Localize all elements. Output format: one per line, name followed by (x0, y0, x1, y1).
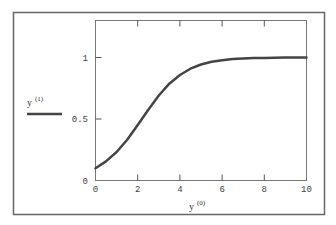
y-tick-label: 1 (83, 54, 88, 64)
x-tick-label: 2 (135, 185, 140, 195)
x-tick-label: 4 (177, 185, 182, 195)
y-tick-label: 0.5 (72, 115, 88, 125)
data-line (96, 58, 307, 169)
plot-area (96, 21, 307, 181)
chart: 0246810 00.51 y(1) y(0) (0, 0, 336, 225)
x-axis-ticks: 0246810 (93, 21, 312, 196)
legend-label: y(1) (27, 95, 44, 108)
y-tick-label: 0 (83, 177, 88, 187)
x-tick-label: 10 (301, 185, 312, 195)
x-tick-label: 0 (93, 185, 98, 195)
x-axis-label: y(0) (189, 199, 206, 212)
x-tick-label: 8 (262, 185, 267, 195)
legend: y(1) (27, 95, 62, 114)
x-tick-label: 6 (219, 185, 224, 195)
